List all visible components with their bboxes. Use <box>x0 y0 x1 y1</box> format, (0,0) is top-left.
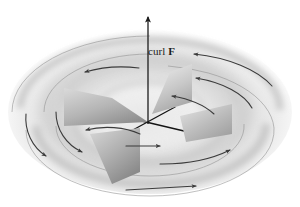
curl-diagram-svg <box>0 0 300 207</box>
vector-symbol-F: F <box>168 45 175 57</box>
curl-label-word: curl <box>148 45 168 57</box>
figure-root: curl F <box>0 0 300 207</box>
curl-vector-label: curl F <box>148 45 175 57</box>
